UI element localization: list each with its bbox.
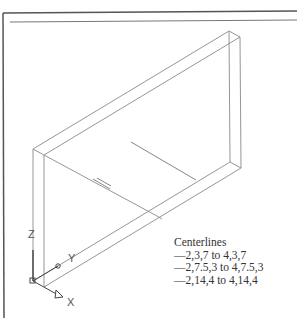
legend-item: —2,7.5,3 to 4,7.5,3 (174, 261, 263, 274)
legend-title: Centerlines (174, 236, 263, 249)
z-axis-label: Z (28, 228, 35, 240)
ucs-icon (30, 250, 63, 298)
centerlines-legend: Centerlines —2,3,7 to 4,3,7 —2,7.5,3 to … (174, 236, 263, 286)
frame-top-line (3, 11, 297, 13)
centerlines (93, 142, 196, 189)
x-axis-label: X (67, 296, 74, 308)
y-axis-label: Y (68, 252, 75, 264)
legend-item: —2,14,4 to 4,14,4 (174, 274, 263, 287)
frame-left-line (3, 13, 4, 318)
legend-item: —2,3,7 to 4,3,7 (174, 249, 263, 262)
frame-inner-line (10, 20, 297, 22)
drawing-viewport[interactable]: Z Y X Centerlines —2,3,7 to 4,3,7 —2,7.5… (0, 0, 297, 318)
